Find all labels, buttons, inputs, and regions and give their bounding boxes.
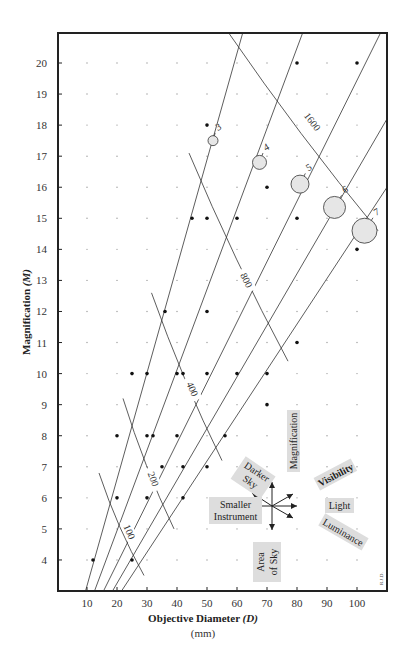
y-tick-label: 9 [42, 399, 48, 411]
grid-dot [236, 93, 237, 94]
grid-dot [356, 373, 357, 374]
grid-dot [86, 280, 87, 281]
grid-dot [326, 218, 327, 219]
grid-dot [206, 528, 207, 529]
grid-dot [86, 466, 87, 467]
grid-dot [206, 249, 207, 250]
grid-dot [356, 466, 357, 467]
brightness-curve [228, 32, 378, 231]
grid-dot [236, 559, 237, 560]
y-tick-label: 14 [36, 243, 48, 255]
y-axis-title: Magnification (M) [20, 269, 33, 355]
grid-dot [86, 249, 87, 250]
grid-dot [356, 559, 357, 560]
grid-dot [176, 311, 177, 312]
grid-dot [236, 466, 237, 467]
grid-dot [146, 218, 147, 219]
data-point [265, 372, 269, 376]
x-tick-label: 50 [202, 597, 214, 609]
data-point [181, 496, 185, 500]
grid-dot [296, 280, 297, 281]
data-point [130, 372, 134, 376]
data-point [145, 496, 149, 500]
exit-pupil-label: 5 [304, 161, 314, 173]
grid-dot [326, 435, 327, 436]
grid-dot [326, 373, 327, 374]
grid-dot [146, 155, 147, 156]
grid-dot [326, 311, 327, 312]
grid-dot [116, 218, 117, 219]
y-tick-label: 18 [36, 119, 48, 131]
legend-magnification: Magnification [288, 413, 299, 470]
exit-pupil-circle [291, 175, 309, 193]
grid-dot [116, 311, 117, 312]
grid-dot [356, 311, 357, 312]
grid-dot [116, 559, 117, 560]
grid-dot [116, 187, 117, 188]
grid-dot [296, 93, 297, 94]
y-tick-label: 5 [42, 523, 48, 535]
x-tick-label: 40 [172, 597, 184, 609]
grid-dot [236, 342, 237, 343]
grid-dot [176, 62, 177, 63]
data-point [175, 434, 179, 438]
grid-dot [146, 559, 147, 560]
grid-dot [86, 155, 87, 156]
grid-dot [266, 124, 267, 125]
data-point [115, 434, 119, 438]
grid-dot [326, 124, 327, 125]
grid-dot [236, 311, 237, 312]
grid-dot [176, 155, 177, 156]
data-point [145, 434, 149, 438]
grid-dot [266, 280, 267, 281]
grid-dot [176, 218, 177, 219]
grid-dot [206, 342, 207, 343]
data-point [130, 558, 134, 562]
legend-light: Light [329, 500, 351, 511]
grid-dot [266, 528, 267, 529]
grid-dot [266, 155, 267, 156]
grid-dot [326, 404, 327, 405]
x-axis-title: Objective Diameter (D) [148, 612, 258, 625]
data-point [205, 310, 209, 314]
grid-dot [176, 497, 177, 498]
grid-dot [206, 93, 207, 94]
legend-instrument: Instrument [214, 511, 258, 522]
chart: 345671002004008001600 102030405060708090… [0, 0, 406, 662]
grid-dot [86, 497, 87, 498]
grid-dot [296, 404, 297, 405]
grid-dot [206, 280, 207, 281]
grid-dot [266, 311, 267, 312]
grid-dot [176, 280, 177, 281]
data-point [205, 372, 209, 376]
grid-dot [296, 155, 297, 156]
grid-dot [236, 187, 237, 188]
grid-dot [86, 373, 87, 374]
data-point [181, 465, 185, 469]
grid-dot [86, 528, 87, 529]
grid-dot [146, 311, 147, 312]
y-tick-label: 16 [36, 181, 48, 193]
grid-dot [176, 187, 177, 188]
leader-line [371, 218, 373, 221]
x-tick-label: 30 [142, 597, 154, 609]
grid-dot [296, 528, 297, 529]
data-point [235, 217, 239, 221]
y-tick-label: 17 [36, 150, 48, 162]
grid-dot [116, 93, 117, 94]
grid-dot [296, 497, 297, 498]
grid-dot [266, 249, 267, 250]
grid-dot [356, 528, 357, 529]
data-point [205, 123, 209, 127]
grid-dot [326, 187, 327, 188]
grid-dot [356, 93, 357, 94]
exit-pupil-circle [208, 136, 218, 146]
grid-dot [176, 466, 177, 467]
y-tick-label: 8 [42, 430, 48, 442]
leader-line [262, 153, 263, 156]
data-point [181, 372, 185, 376]
grid-dot [146, 528, 147, 529]
grid-dot [266, 497, 267, 498]
grid-dot [146, 124, 147, 125]
arrow-up-right-icon [272, 494, 293, 506]
